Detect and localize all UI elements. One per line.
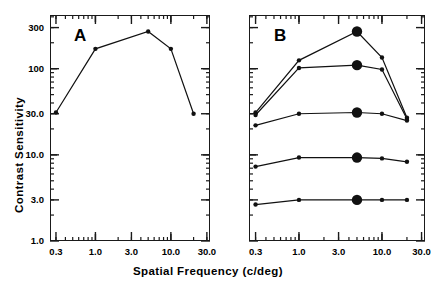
x-tick-label: 30.0 bbox=[400, 247, 444, 257]
x-tick-label: 3.0 bbox=[317, 247, 361, 257]
panel-b: B 0.31.03.010.030.0 bbox=[0, 0, 444, 287]
x-tick-label: 1.0 bbox=[277, 247, 321, 257]
figure-container: Contrast Sensitivity Spatial Frequency (… bbox=[0, 0, 444, 287]
x-tick-label: 0.3 bbox=[234, 247, 278, 257]
x-tick-label: 10.0 bbox=[360, 247, 404, 257]
panel-b-plot bbox=[0, 0, 444, 287]
